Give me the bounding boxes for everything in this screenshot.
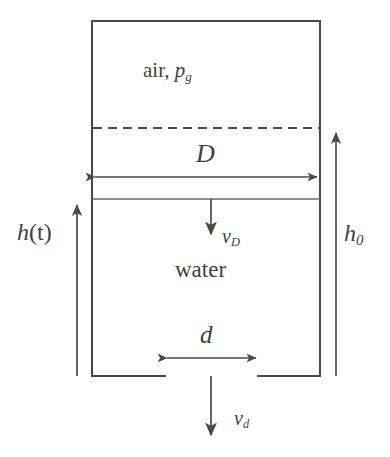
initial-height-label: h0 (344, 221, 363, 248)
surface-velocity-symbol: v (222, 225, 231, 247)
jet-velocity-subscript: d (243, 417, 249, 431)
water-label: water (175, 258, 226, 281)
pressure-subscript: g (185, 69, 192, 84)
tank-diameter-label: D (196, 141, 215, 167)
surface-velocity-label: vD (222, 226, 240, 249)
tank-diameter-symbol: D (196, 139, 215, 168)
current-height-label: h(t) (17, 220, 52, 244)
orifice-diameter-label: d (200, 322, 213, 347)
height-symbol: h (17, 219, 29, 245)
air-pressure-label: air, pg (143, 60, 192, 83)
pressure-symbol: p (175, 58, 186, 82)
air-label-text: air, (143, 58, 170, 82)
initial-height-symbol: h (344, 220, 356, 246)
height-argument: (t) (29, 219, 52, 245)
tank-diagram: air, pg D h(t) h0 vD water d vd (0, 0, 390, 457)
jet-velocity-symbol: v (234, 407, 243, 429)
initial-height-subscript: 0 (356, 232, 363, 248)
jet-velocity-label: vd (234, 408, 249, 431)
surface-velocity-subscript: D (231, 235, 240, 249)
orifice-diameter-symbol: d (200, 321, 213, 348)
water-label-text: water (175, 257, 226, 282)
diagram-canvas (0, 0, 390, 457)
